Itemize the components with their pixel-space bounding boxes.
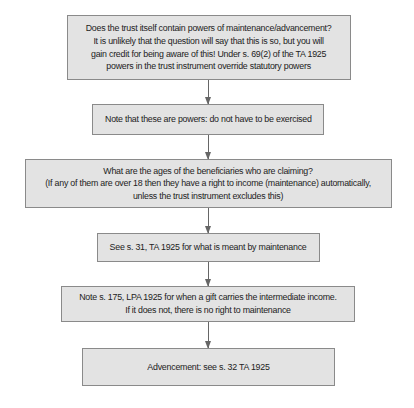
arrow-connector xyxy=(208,208,209,233)
arrow-connector xyxy=(208,262,209,286)
node-powers-note: Note that these are powers: do not have … xyxy=(92,104,324,135)
node-advancement: Advencement: see s. 32 TA 1925 xyxy=(82,348,335,386)
node-line: See s. 31, TA 1925 for what is meant by … xyxy=(110,241,307,254)
node-text: What are the ages of the beneficiaries w… xyxy=(46,165,372,203)
arrow-connector xyxy=(208,135,209,159)
node-line: It is unlikely that the question will sa… xyxy=(86,35,332,48)
node-text: Note s. 175, LPA 1925 for when a gift ca… xyxy=(79,291,337,316)
arrow-connector xyxy=(208,80,209,104)
node-line: powers in the trust instrument override … xyxy=(86,60,332,73)
node-text: See s. 31, TA 1925 for what is meant by … xyxy=(110,241,307,254)
node-line: unless the trust instrument excludes thi… xyxy=(46,190,372,203)
node-text: Advencement: see s. 32 TA 1925 xyxy=(147,361,269,374)
node-trust-powers-question: Does the trust itself contain powers of … xyxy=(67,15,351,80)
node-maintenance-definition: See s. 31, TA 1925 for what is meant by … xyxy=(97,233,320,262)
flowchart-canvas: Does the trust itself contain powers of … xyxy=(0,0,414,408)
node-line: Note s. 175, LPA 1925 for when a gift ca… xyxy=(79,291,337,304)
node-line: What are the ages of the beneficiaries w… xyxy=(46,165,372,178)
node-text: Note that these are powers: do not have … xyxy=(105,113,312,126)
node-intermediate-income: Note s. 175, LPA 1925 for when a gift ca… xyxy=(61,286,355,322)
node-line: Does the trust itself contain powers of … xyxy=(86,22,332,35)
node-line: Note that these are powers: do not have … xyxy=(105,113,312,126)
node-line: (If any of them are over 18 then they ha… xyxy=(46,177,372,190)
node-line: If it does not, there is no right to mai… xyxy=(79,304,337,317)
node-line: Advencement: see s. 32 TA 1925 xyxy=(147,361,269,374)
node-line: gain credit for being aware of this! Und… xyxy=(86,48,332,61)
node-text: Does the trust itself contain powers of … xyxy=(86,22,332,72)
node-beneficiary-ages-question: What are the ages of the beneficiaries w… xyxy=(25,159,392,208)
arrow-connector xyxy=(208,322,209,348)
